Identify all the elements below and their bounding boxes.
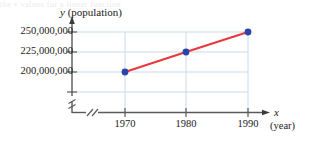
x-tick-label-1980: 1980	[166, 118, 206, 129]
x-tick-label-1990: 1990	[228, 118, 268, 129]
x-axis-break-icon	[87, 109, 98, 116]
data-point-1970	[122, 69, 129, 76]
y-tick-label-225m: 225,000,000	[21, 45, 74, 56]
y-axis-unit: (population)	[68, 6, 122, 18]
x-tick-label-1970: 1970	[105, 118, 145, 129]
x-axis	[72, 110, 270, 116]
chart-screenshot: the y values for a linear function	[0, 0, 310, 142]
x-axis-unit: (year)	[270, 120, 295, 131]
x-axis-variable: x	[274, 106, 279, 118]
data-point-1980	[183, 49, 190, 56]
y-tick-label-200m: 200,000,000	[21, 65, 74, 76]
y-axis-variable: y	[60, 6, 65, 18]
y-axis-title: y (population)	[60, 6, 122, 18]
y-tick-label-250m: 250,000,000	[21, 25, 74, 36]
data-point-1990	[245, 29, 252, 36]
